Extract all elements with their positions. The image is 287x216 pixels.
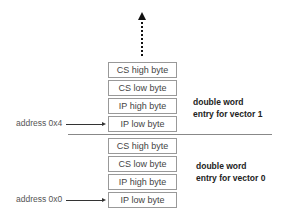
vector-1-arrowhead-icon bbox=[102, 122, 106, 126]
vector-1-ip-low-byte: IP low byte bbox=[108, 116, 177, 132]
vector-separator-line bbox=[68, 134, 272, 135]
vector-1-cs-low-byte: CS low byte bbox=[108, 80, 177, 96]
vector-1-label-line2: entry for vector 1 bbox=[193, 108, 262, 120]
vector-0-ip-high-byte: IP high byte bbox=[108, 174, 177, 190]
vector-1-address: address 0x4 bbox=[16, 118, 62, 128]
vector-1-cs-high-byte: CS high byte bbox=[108, 62, 177, 78]
vector-0-label-line1: double word bbox=[196, 160, 247, 172]
vector-0-label-line2: entry for vector 0 bbox=[196, 172, 265, 184]
vector-0-address-arrow-line bbox=[66, 200, 102, 201]
vector-0-cs-high-byte: CS high byte bbox=[108, 138, 177, 154]
vector-0-ip-low-byte: IP low byte bbox=[108, 192, 177, 208]
vector-0-arrowhead-icon bbox=[102, 198, 106, 202]
vector-0-address: address 0x0 bbox=[16, 194, 62, 204]
vector-1-ip-high-byte: IP high byte bbox=[108, 98, 177, 114]
vector-1-label-line1: double word bbox=[193, 96, 244, 108]
vector-0-cs-low-byte: CS low byte bbox=[108, 156, 177, 172]
vector-1-address-arrow-line bbox=[66, 124, 102, 125]
dotted-up-arrow-icon bbox=[136, 10, 148, 58]
